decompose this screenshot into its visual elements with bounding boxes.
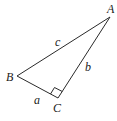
triangle-edges [17,17,110,98]
side-b-line [58,17,110,98]
side-label-a: a [34,93,40,107]
side-label-b: b [85,60,91,74]
right-angle-marker [51,88,63,95]
vertex-label-c: C [53,101,62,115]
side-label-c: c [55,35,61,49]
right-triangle-diagram: A B C c b a [0,0,117,121]
side-c-line [17,17,110,76]
vertex-label-b: B [6,70,14,84]
vertex-label-a: A [106,2,115,16]
